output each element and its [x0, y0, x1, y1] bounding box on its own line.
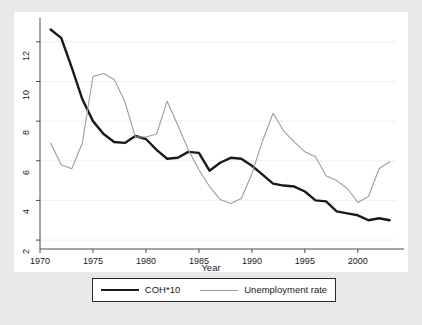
y-tick-label: 8 [22, 130, 31, 135]
legend-line-swatch-coh [101, 289, 139, 291]
chart-canvas [14, 12, 408, 272]
y-axis-tick-labels: 24681012 [0, 0, 26, 325]
x-axis-title: Year [0, 262, 422, 273]
y-tick-label: 2 [22, 249, 31, 254]
gridlines [40, 42, 396, 240]
chart-legend: COH*10 Unemployment rate [92, 278, 336, 302]
data-series-group [51, 30, 390, 221]
y-tick-label: 4 [22, 209, 31, 214]
y-tick-label: 12 [22, 51, 31, 61]
plot-area [14, 12, 408, 272]
legend-line-swatch-unemployment [200, 290, 238, 291]
legend-item-coh[interactable]: COH*10 [101, 285, 180, 295]
legend-item-unemployment[interactable]: Unemployment rate [200, 285, 327, 295]
axis-tickmarks [36, 42, 358, 253]
chart-figure: 24681012 1970197519801985199019952000 Ye… [0, 0, 422, 325]
y-tick-label: 6 [22, 170, 31, 175]
y-tick-label: 10 [22, 90, 31, 100]
legend-label-unemployment: Unemployment rate [244, 285, 327, 295]
legend-label-coh: COH*10 [145, 285, 180, 295]
